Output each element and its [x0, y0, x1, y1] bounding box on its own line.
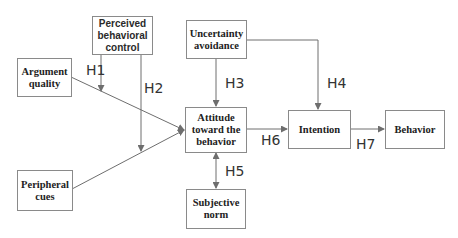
node-attitude: Attitude toward the behavior — [185, 107, 247, 153]
node-uncertainty-avoidance: Uncertainty avoidance — [186, 20, 247, 59]
node-attitude-label: Attitude toward the behavior — [192, 112, 241, 148]
research-model-diagram: Argument quality Perceived behavioral co… — [0, 0, 458, 238]
label-h1: H1 — [86, 63, 105, 77]
node-subjective-norm-label: Subjective norm — [193, 197, 240, 221]
node-uncertainty-avoidance-label: Uncertainty avoidance — [190, 28, 244, 52]
edge-argument-to-attitude — [71, 77, 184, 130]
label-h4: H4 — [327, 76, 346, 90]
node-peripheral-cues: Peripheral cues — [17, 170, 73, 211]
edge-peripheral-to-attitude — [72, 130, 184, 189]
label-h3: H3 — [225, 76, 244, 90]
label-h6: H6 — [261, 133, 280, 147]
node-intention: Intention — [288, 110, 351, 149]
label-h2: H2 — [144, 81, 163, 95]
edge-h4 — [246, 40, 318, 109]
node-behavior: Behavior — [385, 110, 445, 149]
label-h7: H7 — [356, 137, 375, 151]
node-argument-quality-label: Argument quality — [21, 66, 67, 90]
node-behavior-label: Behavior — [395, 124, 436, 136]
node-perceived-behavioral-control-label: Perceived behavioral control — [97, 18, 147, 54]
node-argument-quality: Argument quality — [17, 58, 72, 97]
label-h5: H5 — [225, 164, 244, 178]
node-subjective-norm: Subjective norm — [186, 189, 246, 229]
node-perceived-behavioral-control: Perceived behavioral control — [92, 16, 153, 55]
node-peripheral-cues-label: Peripheral cues — [21, 179, 69, 203]
node-intention-label: Intention — [299, 124, 340, 136]
